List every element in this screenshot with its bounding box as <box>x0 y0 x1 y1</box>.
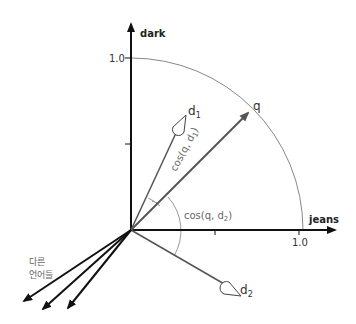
x-tick-label: 1.0 <box>292 237 308 248</box>
other-languages-label-line2: 언어들 <box>29 269 53 280</box>
other-language-vector-2 <box>43 230 131 309</box>
cos-q-d2-label: cos(q, d2) <box>184 210 232 223</box>
d2-label: d2 <box>240 283 253 299</box>
q-label: q <box>253 99 261 113</box>
x-axis-label: jeans <box>308 214 339 225</box>
d1-vector <box>131 133 176 230</box>
d1-label: d1 <box>188 104 201 120</box>
d2-arrowhead-icon <box>220 282 241 296</box>
other-language-vector-3 <box>68 230 131 308</box>
d1-arrowhead-icon <box>172 115 186 136</box>
other-languages-label-line1: 다른 <box>29 257 45 267</box>
d2-vector <box>131 230 226 285</box>
y-axis-label: dark <box>140 28 166 39</box>
vector-space-diagram: dark 1.0 jeans 1.0 q d1 d2 cos(q, d1) co… <box>0 0 356 324</box>
y-tick-label: 1.0 <box>109 53 125 64</box>
angle-arc-q-d2 <box>168 197 181 256</box>
